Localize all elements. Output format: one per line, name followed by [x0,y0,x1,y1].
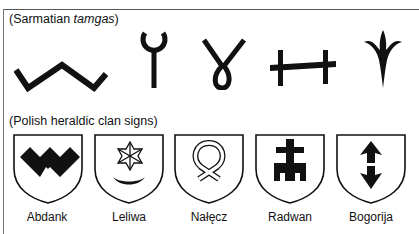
bogorija-label: Bogorija [331,210,411,224]
nalecz-shield-icon [173,133,245,205]
h-bar-tamga-icon [268,48,340,88]
heading-prefix: (Sarmatian [9,12,74,26]
trident-flower-tamga-icon [362,28,404,90]
ring-stem-tamga-icon [137,30,171,90]
abdank-shield-icon [12,133,84,205]
nalecz-label: Nałęcz [169,210,249,224]
radwan-label: Radwan [250,210,330,224]
frame-top-border [3,9,419,10]
heading-suffix: ) [115,12,119,26]
leliwa-shield-icon [93,133,165,205]
sarmatian-heading: (Sarmatian tamgas) [9,12,119,26]
zigzag-tamga-icon [14,60,110,94]
loop-y-tamga-icon [200,36,248,90]
frame-left-border [3,9,4,234]
radwan-shield-icon [254,133,326,205]
leliwa-label: Leliwa [89,210,169,224]
heading-italic: tamgas [74,12,115,26]
bogorija-shield-icon [335,133,407,205]
abdank-label: Abdank [7,210,87,224]
polish-heading: (Polish heraldic clan signs) [9,114,158,128]
